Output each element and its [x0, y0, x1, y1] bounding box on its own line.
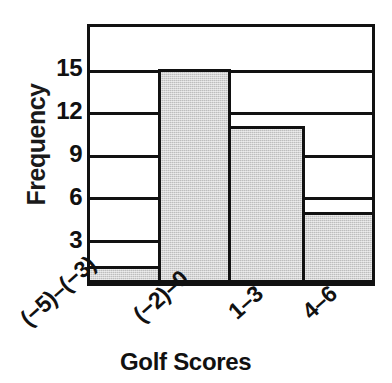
x-tick-label-3: 4–6	[297, 280, 342, 325]
chart-figure: Frequency 15 12 9 6 3 (−5)–(−3) (−2)–0 1…	[0, 0, 392, 383]
y-tick-label-12: 12	[38, 99, 82, 123]
bar-3	[302, 212, 375, 283]
plot-area	[87, 24, 375, 286]
plot-inner	[90, 27, 372, 283]
gridline-12	[90, 112, 372, 115]
x-axis-title: Golf Scores	[120, 348, 380, 376]
y-tick-label-15: 15	[38, 56, 82, 80]
y-axis-tick-labels: 15 12 9 6 3	[34, 0, 82, 383]
y-tick-label-9: 9	[38, 142, 82, 166]
x-tick-label-2: 1–3	[223, 280, 268, 325]
gridline-15	[90, 70, 372, 73]
y-tick-label-6: 6	[38, 185, 82, 209]
y-tick-label-3: 3	[38, 228, 82, 252]
bar-1	[158, 69, 231, 283]
bar-2	[228, 126, 305, 283]
